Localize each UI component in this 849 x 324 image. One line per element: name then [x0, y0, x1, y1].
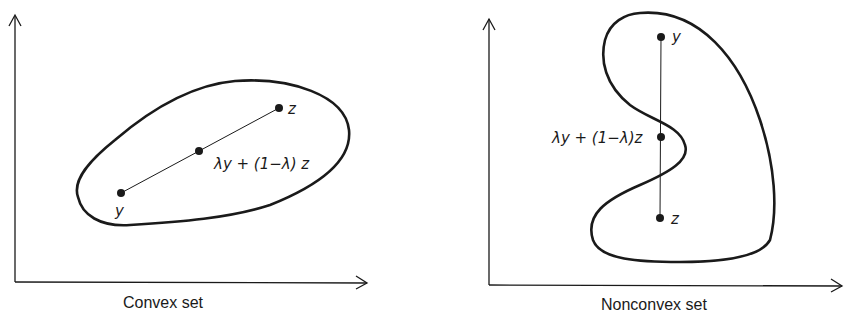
convex-label-y: y — [114, 202, 125, 220]
convex-label-z: z — [287, 100, 297, 118]
nonconvex-point-mid — [657, 133, 665, 141]
nonconvex-caption: Nonconvex set — [601, 296, 707, 313]
nonconvex-label-y: y — [671, 28, 682, 46]
convexity-diagram: z λy + (1−λ) z y Convex set y λy + (1−λ)… — [0, 0, 849, 324]
convex-axes — [9, 15, 367, 289]
convex-point-mid — [195, 147, 203, 155]
convex-caption: Convex set — [123, 294, 204, 311]
nonconvex-point-y — [657, 33, 665, 41]
convex-panel: z λy + (1−λ) z y Convex set — [9, 15, 367, 311]
convex-point-z — [275, 104, 283, 112]
convex-x-axis — [15, 282, 367, 283]
convex-label-mid: λy + (1−λ) z — [213, 155, 310, 173]
nonconvex-segment — [660, 37, 661, 218]
nonconvex-label-mid: λy + (1−λ)z — [551, 129, 644, 147]
nonconvex-point-z — [656, 214, 664, 222]
nonconvex-axes — [483, 19, 842, 292]
convex-point-y — [117, 189, 125, 197]
nonconvex-label-z: z — [670, 210, 680, 228]
nonconvex-panel: y λy + (1−λ)z z Nonconvex set — [483, 13, 842, 313]
nonconvex-x-axis — [489, 285, 842, 286]
